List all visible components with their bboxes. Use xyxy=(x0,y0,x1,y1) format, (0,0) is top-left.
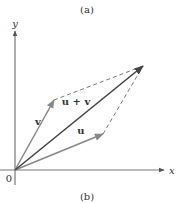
caption-a: (a) xyxy=(80,4,94,15)
vector-v-label: v xyxy=(34,116,42,127)
dashed-side-u xyxy=(54,66,143,100)
vector-u xyxy=(15,134,103,170)
vector-v xyxy=(15,100,54,170)
vector-sum-label: u + v xyxy=(62,96,92,107)
caption-b: (b) xyxy=(80,191,94,202)
origin-label: 0 xyxy=(6,173,12,184)
dashed-side-v xyxy=(103,66,143,134)
vector-addition-diagram: (a) y x 0 v u u + v (b) xyxy=(0,0,178,203)
vector-u-label: u xyxy=(77,125,84,136)
x-axis-label: x xyxy=(169,165,175,176)
y-axis-label: y xyxy=(11,18,18,29)
